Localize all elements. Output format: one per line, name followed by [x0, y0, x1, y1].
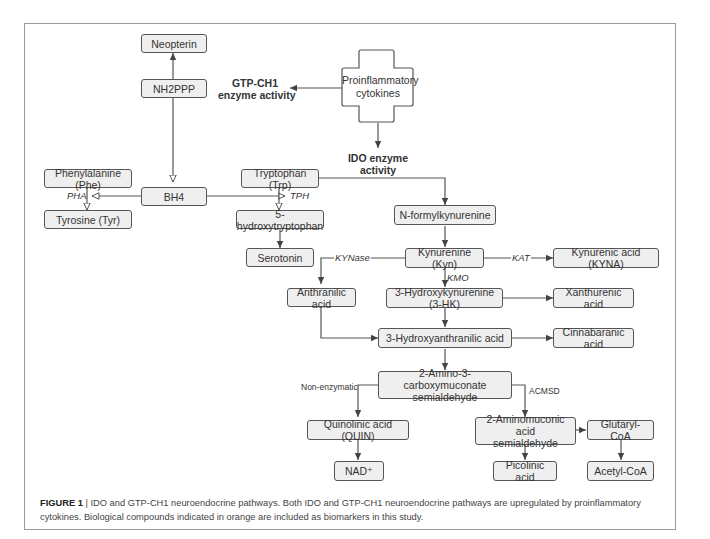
node-phenylalanine: Phenylalanine (Phe)	[44, 169, 132, 188]
node-cinnabaranic-acid: Cinnabaranic acid	[553, 328, 634, 348]
node-acms: 2-Amino-3-carboxymuconate semialdehyde	[378, 371, 512, 399]
node-tryptophan: Tryptophan (Trp)	[241, 169, 319, 188]
enzyme-label-tph: TPH	[290, 190, 309, 201]
gtp-line2: enzyme activity	[218, 89, 292, 101]
node-kynurenine: Kynurenine (Kyn)	[405, 248, 484, 268]
ido-activity-label: IDO enzyme activity	[346, 152, 410, 176]
node-nad: NAD⁺	[334, 461, 384, 481]
enzyme-label-non-enzymatic: Non-enzymatic	[301, 382, 358, 392]
figure-label: FIGURE 1	[40, 498, 83, 508]
acms-line1: 2-Amino-3-carboxymuconate	[382, 367, 508, 391]
cytokines-label-line1: Proinflammatory	[342, 74, 414, 87]
node-kynurenic-acid: Kynurenic acid (KYNA)	[553, 248, 659, 268]
node-anthranilic-acid: Anthranilic acid	[287, 288, 356, 307]
cytokines-node: Proinflammatory cytokines	[342, 74, 414, 100]
ido-line2: activity	[346, 164, 410, 176]
gtp-line1: GTP-CH1	[218, 77, 292, 89]
cytokines-label-line2: cytokines	[342, 87, 414, 100]
node-nh2ppp: NH2PPP	[141, 79, 207, 98]
node-bh4: BH4	[141, 187, 207, 206]
figure-caption: FIGURE 1 | IDO and GTP-CH1 neuroendocrin…	[40, 496, 670, 524]
gtp-ch1-activity-label: GTP-CH1 enzyme activity	[218, 77, 292, 101]
enzyme-label-kynase: KYNase	[334, 252, 371, 263]
node-tyrosine: Tyrosine (Tyr)	[44, 210, 132, 229]
node-acetyl-coa: Acetyl-CoA	[587, 461, 654, 481]
node-serotonin: Serotonin	[246, 248, 314, 267]
ido-line1: IDO enzyme	[346, 152, 410, 164]
node-neopterin: Neopterin	[141, 34, 207, 53]
node-3-hydroxykynurenine: 3-Hydroxykynurenine (3-HK)	[386, 288, 503, 308]
node-picolinic-acid: Picolinic acid	[493, 461, 557, 481]
caption-text: IDO and GTP-CH1 neuroendocrine pathways.…	[40, 498, 641, 522]
node-xanthurenic-acid: Xanthurenic acid	[553, 288, 634, 308]
enzyme-label-acmsd: ACMSD	[529, 386, 560, 396]
enzyme-label-kmo: KMO	[447, 272, 469, 283]
ams-line1: 2-Aminomuconic acid	[479, 413, 572, 437]
node-glutaryl-coa: Glutaryl-CoA	[587, 420, 654, 440]
enzyme-label-kat: KAT	[511, 252, 531, 263]
node-3-hydroxyanthranilic-acid: 3-Hydroxyanthranilic acid	[378, 328, 512, 348]
node-aminomuconic-acid-semialdehyde: 2-Aminomuconic acid semialdehyde	[475, 417, 576, 445]
acms-line2: semialdehyde	[413, 391, 478, 403]
ams-line2: semialdehyde	[493, 437, 558, 449]
enzyme-label-pha: PHA	[67, 190, 87, 201]
node-5-hydroxytryptophan: 5-hydroxytryptophan	[236, 210, 324, 229]
node-quinolinic-acid: Quinolinic acid (QUIN)	[307, 420, 409, 440]
node-n-formylkynurenine: N-formylkynurenine	[394, 205, 496, 225]
